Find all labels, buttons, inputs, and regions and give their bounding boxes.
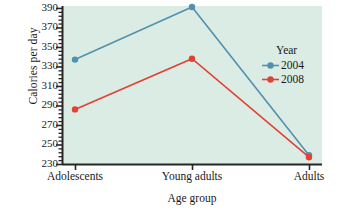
plot-area [0,0,351,215]
data-point-marker [189,4,195,10]
x-tick-label: Adolescents [47,170,103,182]
legend-label: 2008 [281,72,304,86]
y-axis-ticks [56,8,62,164]
legend-entry: 2004 [262,58,304,72]
legend-title: Year [276,43,304,57]
legend-marker-icon [262,59,279,71]
legend-entry: 2008 [262,72,304,86]
data-point-marker [72,106,78,112]
x-axis-title: Age group [62,192,322,204]
legend-marker-icon [262,73,279,85]
data-point-marker [72,56,78,62]
data-point-marker [306,154,312,160]
data-point-marker [189,56,195,62]
legend-label: 2004 [281,58,304,72]
chart-figure: Calories per day 23025027029031033035037… [0,0,351,215]
chart-legend: Year 20042008 [262,43,304,86]
x-tick-label: Young adults [162,170,223,182]
legend-entries: 20042008 [262,58,304,86]
x-tick-label: Adults [294,170,325,182]
